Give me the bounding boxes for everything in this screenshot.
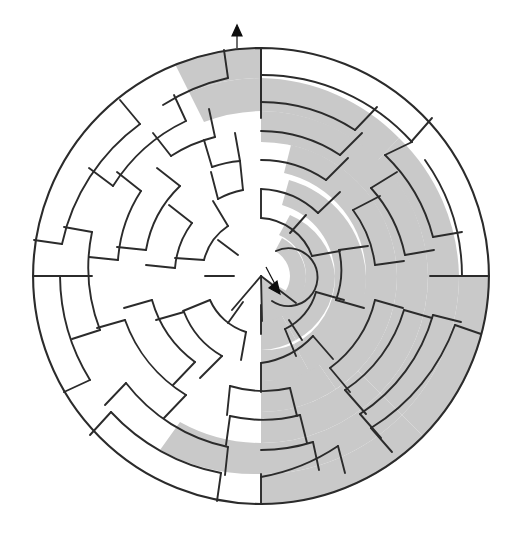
circular-maze-diagram bbox=[0, 0, 518, 539]
figure-canvas: g bbox=[0, 0, 518, 539]
entrance-arrow-icon bbox=[232, 25, 242, 48]
